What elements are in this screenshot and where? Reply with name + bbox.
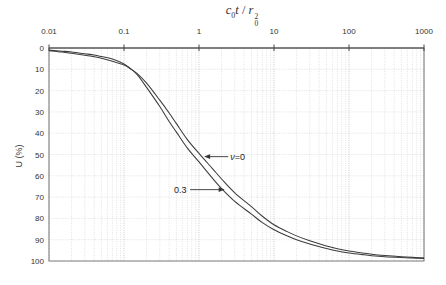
y-tick-label: 60 bbox=[0, 171, 44, 180]
y-tick-label: 20 bbox=[0, 86, 44, 95]
y-tick-label: 0 bbox=[0, 44, 44, 53]
annotation-text-part: 0.3 bbox=[174, 185, 187, 195]
annotation-label: ν=0 bbox=[230, 152, 245, 162]
x-tick-label: 1000 bbox=[415, 27, 433, 36]
y-tick-label: 40 bbox=[0, 129, 44, 138]
x-axis-title: c0t / r20 bbox=[226, 3, 258, 27]
chart-canvas bbox=[0, 0, 446, 285]
x-axis-title-r-sub: 0 bbox=[254, 21, 258, 28]
annotation-arrowhead bbox=[204, 154, 210, 159]
y-tick-label: 10 bbox=[0, 65, 44, 74]
x-axis-title-r-scripts: 20 bbox=[254, 14, 258, 27]
x-tick-label: 0.01 bbox=[41, 27, 57, 36]
x-axis-title-sep: / bbox=[239, 3, 249, 17]
x-axis-title-r: r bbox=[249, 3, 254, 17]
consolidation-chart: c0t / r20 U (%) 0.010.11101001000 010203… bbox=[0, 0, 446, 285]
y-tick-label: 50 bbox=[0, 150, 44, 159]
x-tick-label: 0.1 bbox=[118, 27, 129, 36]
annotation-label: 0.3 bbox=[174, 185, 187, 195]
x-tick-label: 100 bbox=[342, 27, 355, 36]
x-tick-label: 1 bbox=[197, 27, 201, 36]
y-tick-label: 100 bbox=[0, 257, 44, 266]
y-tick-label: 90 bbox=[0, 235, 44, 244]
y-tick-label: 70 bbox=[0, 193, 44, 202]
x-tick-label: 10 bbox=[270, 27, 279, 36]
annotation-text-part: =0 bbox=[235, 152, 245, 162]
y-tick-label: 30 bbox=[0, 107, 44, 116]
y-tick-label: 80 bbox=[0, 214, 44, 223]
